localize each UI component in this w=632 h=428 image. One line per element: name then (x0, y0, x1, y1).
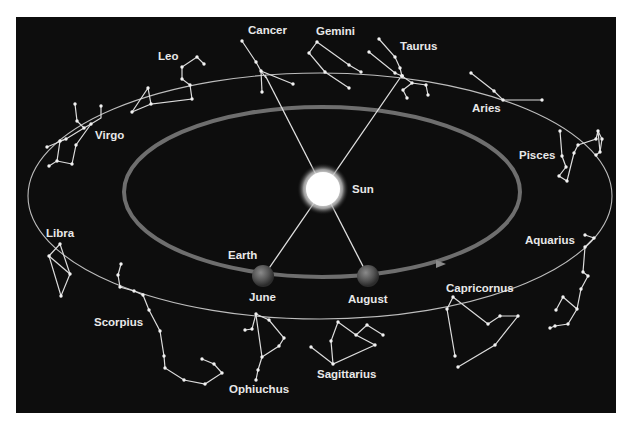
earth-june-icon (252, 265, 274, 287)
label-taurus: Taurus (400, 40, 438, 52)
zodiac-diagram: Cancer Gemini Taurus Leo Aries Virgo Pis… (0, 0, 632, 428)
label-ophiuchus: Ophiuchus (229, 383, 289, 395)
constellation-cancer (242, 41, 293, 92)
label-scorpius: Scorpius (94, 316, 143, 328)
label-sagittarius: Sagittarius (317, 368, 376, 380)
constellation-aquarius (550, 235, 594, 328)
constellation-capricornus (447, 297, 518, 367)
constellation-gemini (309, 42, 361, 88)
label-june: June (249, 291, 276, 303)
label-aries: Aries (472, 102, 501, 114)
label-capricornus: Capricornus (446, 282, 514, 294)
label-libra: Libra (46, 227, 75, 239)
label-august: August (348, 293, 388, 305)
label-aquarius: Aquarius (525, 234, 575, 246)
label-virgo: Virgo (95, 129, 124, 141)
label-gemini: Gemini (316, 25, 355, 37)
constellation-leo (132, 57, 204, 112)
earth-august-icon (357, 265, 379, 287)
constellation-virgo (47, 104, 101, 166)
label-pisces: Pisces (519, 149, 555, 161)
constellation-aries (471, 73, 542, 100)
label-leo: Leo (158, 50, 178, 62)
constellation-sagittarius (311, 322, 383, 364)
label-earth: Earth (228, 249, 257, 261)
label-cancer: Cancer (248, 24, 288, 36)
label-sun: Sun (352, 183, 374, 195)
